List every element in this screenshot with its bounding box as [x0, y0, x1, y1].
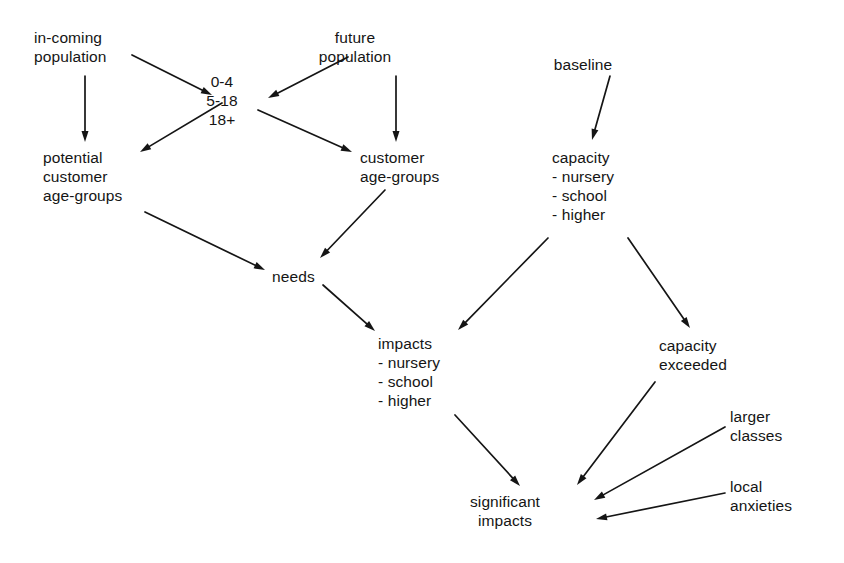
edge-anxieties-to-significant: [596, 493, 725, 520]
node-age-bands-line: 18+: [206, 110, 237, 129]
edge-agebands-to-customer: [258, 110, 352, 152]
node-potential-customer-age-groups-line: customer: [43, 167, 122, 186]
node-impacts-line: - school: [378, 372, 440, 391]
edge-incoming-to-potential: [82, 76, 89, 142]
node-age-bands-line: 5-18: [206, 91, 237, 110]
node-age-bands-line: 0-4: [206, 72, 237, 91]
node-capacity-line: - nursery: [552, 167, 614, 186]
edge-needs-to-impacts: [323, 285, 375, 331]
node-capacity-line: capacity: [552, 148, 614, 167]
node-customer-age-groups-line: customer: [360, 148, 439, 167]
node-significant-impacts: significantimpacts: [470, 492, 540, 530]
node-potential-customer-age-groups-line: age-groups: [43, 186, 122, 205]
node-customer-age-groups-line: age-groups: [360, 167, 439, 186]
node-in-coming-population: in-comingpopulation: [34, 28, 107, 66]
edge-incoming-to-agebands: [132, 55, 212, 95]
node-capacity-exceeded-line: capacity: [659, 336, 727, 355]
edge-customer-to-needs: [320, 190, 385, 258]
node-significant-impacts-line: impacts: [470, 511, 540, 530]
node-capacity-line: - higher: [552, 205, 614, 224]
node-larger-classes-line: classes: [730, 426, 782, 445]
edge-capacity-to-exceeded: [628, 238, 690, 328]
node-potential-customer-age-groups-line: potential: [43, 148, 122, 167]
node-needs: needs: [272, 267, 315, 286]
node-local-anxieties: localanxieties: [730, 477, 792, 515]
node-future-population-line: future: [319, 28, 392, 47]
edge-larger-to-significant: [594, 427, 725, 500]
node-capacity-exceeded: capacityexceeded: [659, 336, 727, 374]
node-capacity-line: - school: [552, 186, 614, 205]
node-capacity-exceeded-line: exceeded: [659, 355, 727, 374]
edge-capacity-to-impacts: [458, 238, 548, 330]
node-customer-age-groups: customerage-groups: [360, 148, 439, 186]
node-potential-customer-age-groups: potentialcustomerage-groups: [43, 148, 122, 205]
edge-potential-to-needs: [145, 212, 265, 270]
node-needs-line: needs: [272, 267, 315, 286]
edge-impacts-to-significant: [455, 415, 520, 486]
node-impacts: impacts- nursery- school- higher: [378, 334, 440, 410]
diagram-canvas: in-comingpopulationfuturepopulationbasel…: [0, 0, 844, 563]
edge-baseline-to-capacity: [592, 76, 610, 140]
node-capacity: capacity- nursery- school- higher: [552, 148, 614, 224]
node-impacts-line: impacts: [378, 334, 440, 353]
node-larger-classes: largerclasses: [730, 407, 782, 445]
node-significant-impacts-line: significant: [470, 492, 540, 511]
node-age-bands: 0-45-1818+: [206, 72, 237, 129]
node-baseline: baseline: [554, 55, 613, 74]
edge-future-to-customer: [393, 76, 400, 142]
edge-exceeded-to-significant: [577, 382, 655, 485]
node-future-population: futurepopulation: [319, 28, 392, 66]
arrow-layer: [0, 0, 844, 563]
node-local-anxieties-line: local: [730, 477, 792, 496]
node-larger-classes-line: larger: [730, 407, 782, 426]
node-in-coming-population-line: population: [34, 47, 107, 66]
node-local-anxieties-line: anxieties: [730, 496, 792, 515]
node-in-coming-population-line: in-coming: [34, 28, 107, 47]
node-impacts-line: - nursery: [378, 353, 440, 372]
node-baseline-line: baseline: [554, 55, 613, 74]
node-impacts-line: - higher: [378, 391, 440, 410]
node-future-population-line: population: [319, 47, 392, 66]
